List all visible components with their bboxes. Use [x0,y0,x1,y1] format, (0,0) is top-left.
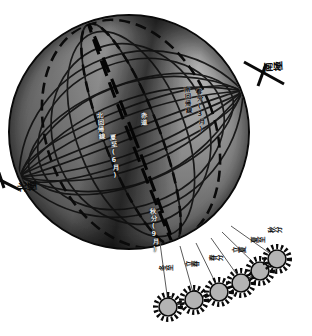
sun-label-2: 立春 [185,262,199,269]
sun-label-5: 夏至 [251,238,265,245]
sun-icon[interactable] [248,259,273,284]
sun-label-6: 秋分 [268,228,282,235]
sun-icon[interactable] [207,280,232,305]
sun-label-3: 春分 [209,256,223,263]
sun-icon[interactable] [182,288,207,313]
globe-label-equator: 赤道 [139,112,147,126]
south-pole-label: 南極 [263,63,283,74]
earth-globe [8,14,250,250]
sun-label-4: 立夏 [232,248,246,255]
lat-lon-grid [10,16,248,248]
globe-label-tropic-north: 北回帰線 [95,112,104,140]
north-pole-label: 北極 [17,183,37,194]
sun-icon[interactable] [156,295,181,320]
sun-icon[interactable] [229,271,254,296]
diagram-canvas: 北回帰線 赤道 南回帰線 夏至(6月) 春分(3月) 秋分(9月) 南極 北極 [0,0,312,336]
globe-label-tropic-south: 南回帰線 [182,86,191,114]
sun-label-1: 冬至 [159,266,173,273]
sun-icon[interactable] [265,247,290,272]
globe-body [8,14,250,250]
